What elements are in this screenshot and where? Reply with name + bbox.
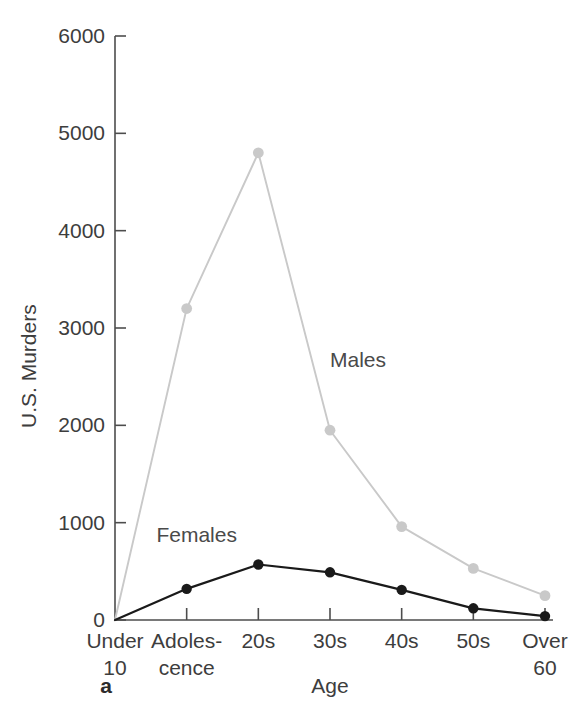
x-tick-label-6-line1: 60 [533,656,556,679]
x-tick-label-0-line0: Under [86,629,143,652]
data-point-males-2 [253,147,264,158]
panel-label: a [100,674,112,697]
x-tick-label-6-line0: Over [522,629,568,652]
x-tick-label-1-line1: cence [159,656,215,679]
annotation-males: Males [330,348,386,371]
y-tick-label-0: 0 [93,608,105,631]
data-point-males-3 [325,425,336,436]
data-point-females-5 [468,603,478,613]
x-tick-label-2-line0: 20s [241,629,275,652]
series-males [115,147,550,620]
line-chart: 0100020003000400050006000 Under10Adoles-… [0,0,586,715]
x-tick-label-5-line0: 50s [456,629,490,652]
y-axis-ticks [115,36,126,620]
series-annotations: MalesFemales [156,348,386,546]
data-point-females-6 [540,611,550,621]
data-point-females-2 [253,559,263,569]
y-tick-label-3000: 3000 [58,316,105,339]
figure-panel-a: 0100020003000400050006000 Under10Adoles-… [0,0,586,715]
y-axis-title: U.S. Murders [17,304,40,428]
y-axis-tick-labels: 0100020003000400050006000 [58,24,105,631]
data-series-layer [115,147,550,621]
data-point-males-4 [396,521,407,532]
x-tick-label-1-line0: Adoles- [151,629,222,652]
data-point-males-1 [181,303,192,314]
annotation-females: Females [156,523,237,546]
series-females [115,559,550,621]
data-point-females-3 [325,567,335,577]
y-tick-label-1000: 1000 [58,511,105,534]
x-tick-label-4-line0: 40s [385,629,419,652]
data-point-males-5 [468,563,479,574]
x-axis-tick-labels: Under10Adoles-cence20s30s40s50sOver60 [86,629,567,679]
data-point-males-6 [540,590,551,601]
y-tick-label-2000: 2000 [58,413,105,436]
x-tick-label-3-line0: 30s [313,629,347,652]
data-point-females-4 [396,585,406,595]
y-tick-label-5000: 5000 [58,121,105,144]
x-axis-title: Age [311,674,348,697]
y-tick-label-4000: 4000 [58,219,105,242]
y-tick-label-6000: 6000 [58,24,105,47]
series-line-males [115,153,545,620]
data-point-females-1 [181,584,191,594]
